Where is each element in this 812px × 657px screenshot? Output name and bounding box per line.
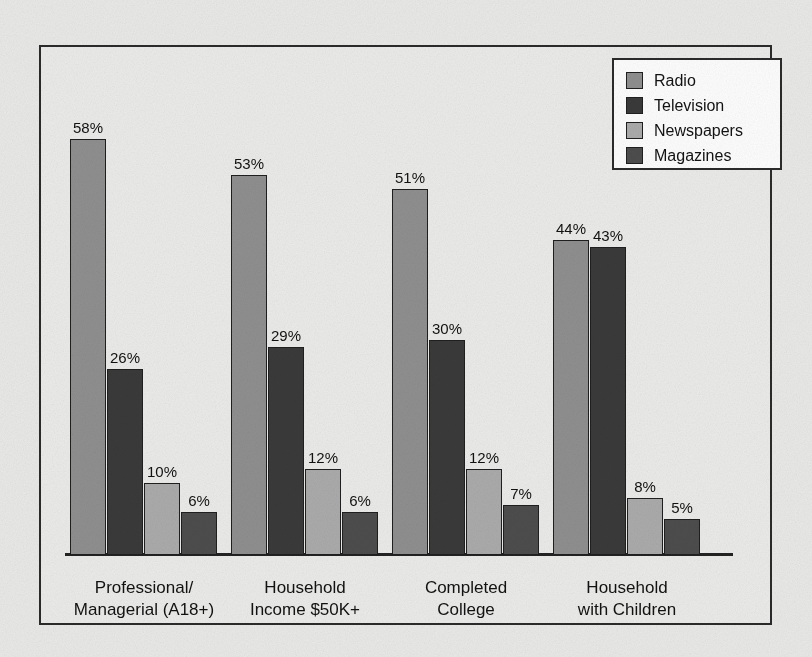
legend-swatch-magazines xyxy=(626,147,643,164)
bar-slot: 6% xyxy=(342,125,378,555)
bar-slot: 29% xyxy=(268,125,304,555)
bar-slot: 10% xyxy=(144,125,180,555)
bar-newspapers[interactable] xyxy=(466,469,502,555)
bar-magazines[interactable] xyxy=(181,512,217,555)
bar-slot: 44% xyxy=(553,125,589,555)
bar-value-label: 53% xyxy=(234,155,264,172)
bar-radio[interactable] xyxy=(553,240,589,555)
bar-slot: 12% xyxy=(305,125,341,555)
bar-radio[interactable] xyxy=(70,139,106,555)
bar-slot: 53% xyxy=(231,125,267,555)
chart-frame: 58%26%10%6%53%29%12%6%51%30%12%7%44%43%8… xyxy=(39,45,772,625)
chart-legend: Radio Television Newspapers Magazines xyxy=(612,58,782,170)
category-label: Household with Children xyxy=(507,577,747,621)
bar-value-label: 30% xyxy=(432,320,462,337)
legend-item[interactable]: Radio xyxy=(626,68,780,93)
bar-value-label: 29% xyxy=(271,327,301,344)
legend-swatch-television xyxy=(626,97,643,114)
bar-group: 53%29%12%6% xyxy=(231,125,379,555)
bar-magazines[interactable] xyxy=(503,505,539,555)
bar-newspapers[interactable] xyxy=(627,498,663,555)
bar-newspapers[interactable] xyxy=(305,469,341,555)
legend-swatch-newspapers xyxy=(626,122,643,139)
bar-magazines[interactable] xyxy=(664,519,700,555)
bar-slot: 30% xyxy=(429,125,465,555)
bar-slot: 43% xyxy=(590,125,626,555)
bar-value-label: 7% xyxy=(510,485,532,502)
legend-label-radio: Radio xyxy=(654,72,696,90)
bar-group: 58%26%10%6% xyxy=(70,125,218,555)
bar-television[interactable] xyxy=(268,347,304,555)
bar-value-label: 6% xyxy=(349,492,371,509)
bar-slot: 8% xyxy=(627,125,663,555)
bar-value-label: 6% xyxy=(188,492,210,509)
bar-slot: 26% xyxy=(107,125,143,555)
bar-value-label: 44% xyxy=(556,220,586,237)
legend-label-television: Television xyxy=(654,97,724,115)
legend-swatch-radio xyxy=(626,72,643,89)
bar-magazines[interactable] xyxy=(342,512,378,555)
bar-value-label: 51% xyxy=(395,169,425,186)
bar-value-label: 5% xyxy=(671,499,693,516)
bar-slot: 58% xyxy=(70,125,106,555)
bar-slot: 51% xyxy=(392,125,428,555)
bar-slot: 7% xyxy=(503,125,539,555)
bar-newspapers[interactable] xyxy=(144,483,180,555)
bar-value-label: 12% xyxy=(469,449,499,466)
bar-value-label: 26% xyxy=(110,349,140,366)
bar-radio[interactable] xyxy=(392,189,428,555)
legend-label-newspapers: Newspapers xyxy=(654,122,743,140)
bar-slot: 12% xyxy=(466,125,502,555)
bar-value-label: 10% xyxy=(147,463,177,480)
bar-television[interactable] xyxy=(590,247,626,555)
bar-television[interactable] xyxy=(107,369,143,555)
bar-radio[interactable] xyxy=(231,175,267,555)
bar-group: 51%30%12%7% xyxy=(392,125,540,555)
bar-value-label: 43% xyxy=(593,227,623,244)
bar-slot: 5% xyxy=(664,125,700,555)
bar-value-label: 12% xyxy=(308,449,338,466)
bar-group: 44%43%8%5% xyxy=(553,125,701,555)
legend-item[interactable]: Television xyxy=(626,93,780,118)
legend-item[interactable]: Magazines xyxy=(626,143,780,168)
bar-slot: 6% xyxy=(181,125,217,555)
legend-label-magazines: Magazines xyxy=(654,147,731,165)
bar-value-label: 8% xyxy=(634,478,656,495)
bar-television[interactable] xyxy=(429,340,465,555)
bar-value-label: 58% xyxy=(73,119,103,136)
legend-item[interactable]: Newspapers xyxy=(626,118,780,143)
